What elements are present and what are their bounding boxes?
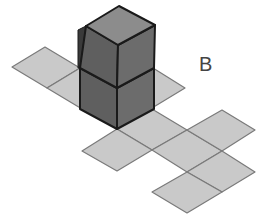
stacked-cubes xyxy=(78,6,155,129)
cube-net-diagram: B xyxy=(0,0,278,217)
figure-label: B xyxy=(199,54,212,74)
isometric-figure xyxy=(0,0,278,217)
